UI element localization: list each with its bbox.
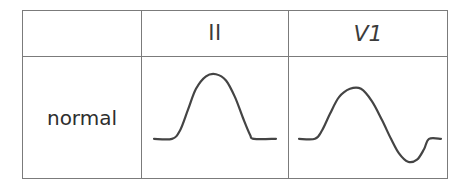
p-wave-biphasic-trace-icon [289, 68, 448, 168]
waveform-cell-lead-ii [142, 57, 289, 179]
waveform-cell-lead-v1 [289, 57, 448, 179]
p-wave-upright-trace-icon [142, 68, 289, 168]
header-cell-condition [23, 11, 142, 57]
row-header-cell-normal: normal [23, 57, 142, 179]
header-cell-lead-ii: II [142, 11, 289, 57]
header-cell-lead-v1: V1 [289, 11, 448, 57]
header-label-lead-v1: V1 [289, 23, 447, 45]
header-label-lead-ii: II [142, 23, 288, 44]
table-header-row: II V1 [23, 11, 448, 57]
ecg-morphology-table: II V1 normal [22, 10, 448, 179]
row-label-normal: normal [23, 108, 141, 128]
ecg-morphology-figure: II V1 normal [0, 0, 468, 189]
table-row: normal [23, 57, 448, 179]
